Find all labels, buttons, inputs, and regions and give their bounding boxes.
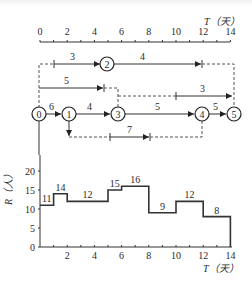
activity-duration: 4 (87, 101, 92, 112)
histogram-value-labels: 11141215169128 (42, 174, 219, 215)
top-axis-tick-label: 6 (119, 26, 124, 37)
top-axis-tick-label: 2 (65, 26, 70, 37)
node-5-label: 5 (232, 109, 237, 120)
top-axis-tick-label: 8 (146, 26, 151, 37)
x-tick-label: 10 (171, 250, 181, 261)
dashed-link-2-5 (202, 64, 234, 107)
activity-duration: 7 (127, 124, 132, 135)
top-axis-tick-label: 12 (198, 26, 208, 37)
histogram-value-label: 14 (55, 182, 65, 193)
activity-duration: 5 (64, 75, 69, 86)
y-tick-label: 20 (25, 166, 35, 177)
activity-duration: 6 (49, 101, 54, 112)
histogram-value-label: 9 (160, 201, 165, 212)
histogram-value-label: 15 (110, 178, 120, 189)
top-axis-tick-label: 4 (92, 26, 97, 37)
histogram-value-label: 16 (130, 174, 140, 185)
node-2-label: 2 (105, 59, 110, 70)
histogram-ylabel: R（人） (3, 169, 14, 206)
histogram-value-label: 8 (214, 205, 219, 216)
dashed-link-7-4 (150, 121, 202, 137)
x-tick-label: 14 (225, 250, 235, 261)
x-tick-label: 2 (65, 250, 70, 261)
time-scaled-network-diagram: T（天） 02468101214 3 4 5 3 6 4 5 5 (0, 0, 252, 285)
node-1-label: 1 (67, 109, 72, 120)
network: 3 4 5 3 6 4 5 5 7 0123 (32, 51, 241, 155)
histogram-value-label: 12 (83, 189, 93, 200)
activity-duration: 3 (200, 83, 205, 94)
resource-histogram: R（人） T（天） 051015202468101214 11141215169… (3, 155, 239, 274)
network-nodes: 012345 (32, 57, 241, 121)
y-tick-label: 15 (25, 185, 35, 196)
activity-duration: 4 (140, 51, 145, 62)
node-0-label: 0 (37, 109, 42, 120)
node-4-label: 4 (200, 109, 205, 120)
activity-duration: 3 (70, 51, 75, 62)
x-tick-label: 4 (92, 250, 97, 261)
top-time-axis: T（天） 02468101214 (38, 16, 240, 42)
x-tick-label: 12 (198, 250, 208, 261)
node-3-label: 3 (116, 109, 121, 120)
dashed-link-0-3 (104, 88, 118, 107)
histogram-value-label: 11 (42, 193, 52, 204)
histogram-step-line (40, 186, 230, 247)
activity-duration: 5 (213, 101, 218, 112)
x-tick-label: 6 (119, 250, 124, 261)
top-axis-tick-label: 10 (171, 26, 181, 37)
y-tick-label: 10 (25, 204, 35, 215)
histogram-xlabel: T（天） (203, 263, 239, 274)
top-axis-tick-label: 14 (225, 26, 235, 37)
top-axis-ticks: 02468101214 (38, 26, 236, 42)
activity-duration: 5 (155, 101, 160, 112)
y-tick-label: 5 (30, 223, 35, 234)
histogram-value-label: 12 (185, 189, 195, 200)
top-axis-tick-label: 0 (38, 26, 43, 37)
x-tick-label: 8 (146, 250, 151, 261)
y-tick-label: 0 (30, 242, 35, 253)
